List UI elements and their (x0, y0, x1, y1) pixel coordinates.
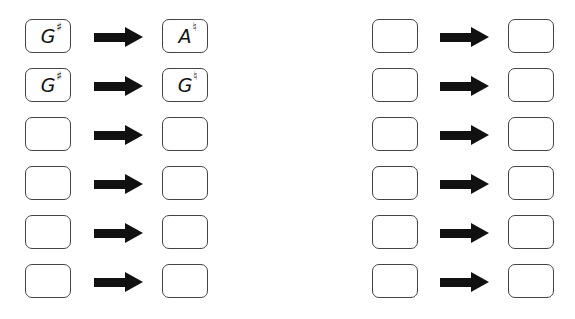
right-arrow-icon (440, 272, 490, 292)
right-to-box[interactable] (508, 19, 554, 53)
right-arrow-icon (440, 125, 490, 145)
arrow-head (471, 125, 489, 145)
arrow-head (125, 125, 143, 145)
right-to-box[interactable] (508, 68, 554, 102)
left-from-box[interactable] (25, 264, 71, 298)
right-arrow-icon (440, 223, 490, 243)
accidental-symbol: ♮ (193, 21, 197, 33)
left-to-box[interactable]: G♮ (162, 68, 208, 102)
arrow-head (125, 27, 143, 47)
right-arrow-icon (94, 27, 144, 47)
arrow-shaft (440, 229, 472, 238)
arrow-shaft (440, 131, 472, 140)
arrow-head (471, 272, 489, 292)
left-from-box[interactable] (25, 215, 71, 249)
accidental-symbol: ♯ (56, 70, 62, 82)
note-name: G♮ (178, 76, 193, 95)
arrow-head (471, 76, 489, 96)
arrow-shaft (94, 33, 126, 42)
left-from-box[interactable]: G♯ (25, 19, 71, 53)
right-to-box[interactable] (508, 264, 554, 298)
arrow-head (125, 174, 143, 194)
arrow-head (471, 223, 489, 243)
right-to-box[interactable] (508, 215, 554, 249)
left-to-box[interactable] (162, 264, 208, 298)
note-name: A♮ (179, 27, 192, 46)
left-from-box[interactable] (25, 166, 71, 200)
left-to-box[interactable] (162, 117, 208, 151)
right-arrow-icon (94, 76, 144, 96)
right-from-box[interactable] (372, 68, 418, 102)
arrow-shaft (94, 278, 126, 287)
arrow-shaft (94, 82, 126, 91)
right-to-box[interactable] (508, 117, 554, 151)
right-arrow-icon (440, 76, 490, 96)
right-arrow-icon (94, 174, 144, 194)
right-arrow-icon (94, 272, 144, 292)
left-to-box[interactable] (162, 166, 208, 200)
right-arrow-icon (94, 223, 144, 243)
arrow-shaft (94, 180, 126, 189)
right-from-box[interactable] (372, 117, 418, 151)
right-from-box[interactable] (372, 166, 418, 200)
arrow-head (471, 27, 489, 47)
accidental-symbol: ♯ (56, 21, 62, 33)
arrow-head (125, 272, 143, 292)
right-arrow-icon (440, 174, 490, 194)
arrow-shaft (440, 33, 472, 42)
arrow-shaft (440, 278, 472, 287)
left-from-box[interactable]: G♯ (25, 68, 71, 102)
arrow-shaft (94, 229, 126, 238)
right-arrow-icon (440, 27, 490, 47)
note-name: G♯ (41, 27, 56, 46)
left-to-box[interactable] (162, 215, 208, 249)
right-from-box[interactable] (372, 264, 418, 298)
arrow-shaft (440, 82, 472, 91)
arrow-head (471, 174, 489, 194)
right-from-box[interactable] (372, 19, 418, 53)
arrow-head (125, 76, 143, 96)
right-arrow-icon (94, 125, 144, 145)
right-to-box[interactable] (508, 166, 554, 200)
left-to-box[interactable]: A♮ (162, 19, 208, 53)
arrow-shaft (94, 131, 126, 140)
left-from-box[interactable] (25, 117, 71, 151)
right-from-box[interactable] (372, 215, 418, 249)
arrow-head (125, 223, 143, 243)
accidental-symbol: ♮ (193, 70, 197, 82)
arrow-shaft (440, 180, 472, 189)
note-name: G♯ (41, 76, 56, 95)
